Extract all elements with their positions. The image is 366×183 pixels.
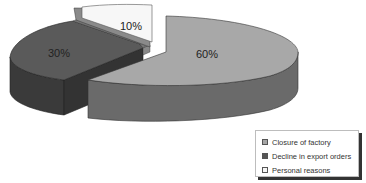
legend-swatch [262, 139, 268, 145]
legend-label: Personal reasons [272, 166, 330, 175]
legend-swatch [262, 153, 268, 159]
legend: Closure of factory Decline in export ord… [255, 130, 359, 177]
label-10: 10% [120, 20, 142, 32]
legend-swatch [262, 167, 268, 173]
legend-item-closure-of-factory: Closure of factory [262, 135, 358, 149]
label-30: 30% [48, 47, 70, 59]
label-60: 60% [196, 48, 218, 60]
legend-label: Decline in export orders [272, 152, 351, 161]
legend-label: Closure of factory [272, 138, 331, 147]
legend-item-decline-in-export-orders: Decline in export orders [262, 149, 358, 163]
legend-item-personal-reasons: Personal reasons [262, 163, 358, 177]
